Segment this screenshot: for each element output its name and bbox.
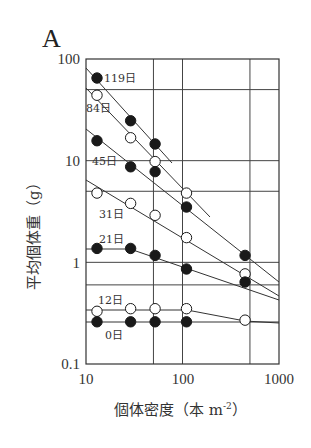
filled-circle-marker bbox=[125, 243, 135, 253]
open-circle-marker bbox=[150, 156, 160, 166]
filled-circle-marker bbox=[240, 277, 250, 287]
open-circle-marker bbox=[92, 188, 102, 198]
series-label: 21日 bbox=[99, 233, 124, 246]
filled-circle-marker bbox=[181, 202, 191, 212]
filled-circle-marker bbox=[150, 317, 160, 327]
open-circle-marker bbox=[181, 232, 191, 242]
filled-circle-marker bbox=[181, 317, 191, 327]
filled-circle-marker bbox=[125, 162, 135, 172]
open-circle-marker bbox=[150, 210, 160, 220]
open-circle-marker bbox=[92, 306, 102, 316]
series-label: 12日 bbox=[98, 294, 123, 307]
open-circle-marker bbox=[125, 303, 135, 313]
series-label: 84日 bbox=[86, 102, 111, 115]
filled-circle-marker bbox=[240, 250, 250, 260]
filled-circle-marker bbox=[150, 250, 160, 260]
open-circle-marker bbox=[92, 90, 102, 100]
filled-circle-marker bbox=[125, 116, 135, 126]
series-label: 45日 bbox=[92, 155, 117, 168]
open-circle-marker bbox=[125, 133, 135, 143]
series-label: 119日 bbox=[104, 72, 136, 85]
filled-circle-marker bbox=[125, 317, 135, 327]
filled-circle-marker bbox=[150, 166, 160, 176]
filled-circle-marker bbox=[92, 317, 102, 327]
open-circle-marker bbox=[150, 303, 160, 313]
data-points bbox=[92, 73, 250, 327]
filled-circle-marker bbox=[150, 139, 160, 149]
chart-plot-area: 119日84日45日31日21日12日0日 bbox=[0, 0, 311, 448]
series-label: 0日 bbox=[105, 329, 123, 342]
open-circle-marker bbox=[125, 198, 135, 208]
filled-circle-marker bbox=[92, 73, 102, 83]
filled-circle-marker bbox=[92, 136, 102, 146]
series-label: 31日 bbox=[99, 208, 124, 221]
filled-circle-marker bbox=[181, 264, 191, 274]
open-circle-marker bbox=[181, 188, 191, 198]
open-circle-marker bbox=[240, 315, 250, 325]
open-circle-marker bbox=[181, 303, 191, 313]
